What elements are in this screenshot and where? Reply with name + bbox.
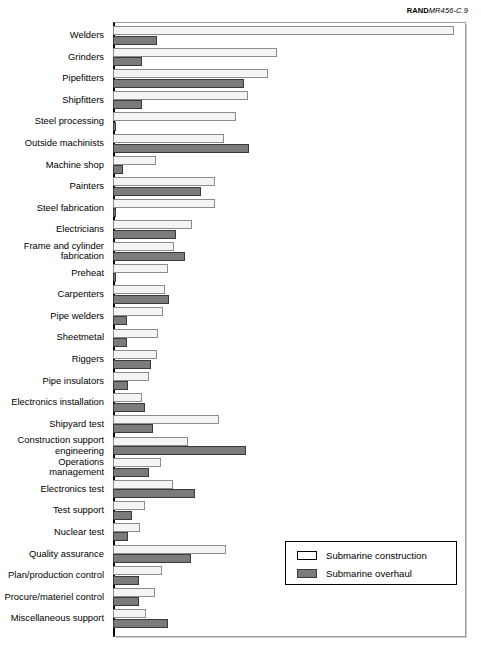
bar-group	[113, 48, 466, 70]
bar-submarine-construction	[113, 199, 215, 208]
bar-submarine-construction	[113, 48, 277, 57]
bar-submarine-construction	[113, 134, 224, 143]
source-credit-rest: MR456-C.9	[429, 6, 468, 15]
legend-label-construction: Submarine construction	[326, 550, 427, 561]
bar-submarine-overhaul	[113, 338, 127, 347]
legend-item-submarine-overhaul: Submarine overhaul	[297, 567, 412, 579]
bar-submarine-construction	[113, 307, 163, 316]
bar-group	[113, 415, 466, 437]
bar-submarine-construction	[113, 501, 145, 510]
bar-submarine-overhaul	[113, 597, 139, 606]
category-label: Electricians	[0, 224, 104, 235]
bar-submarine-overhaul	[113, 230, 176, 239]
bar-submarine-overhaul	[113, 273, 116, 282]
category-label: Steel fabrication	[0, 203, 104, 214]
bar-group	[113, 609, 466, 631]
legend-swatch-construction-icon	[297, 551, 317, 560]
legend-label-overhaul: Submarine overhaul	[326, 568, 412, 579]
bar-group	[113, 393, 466, 415]
bar-submarine-construction	[113, 112, 236, 121]
bar-submarine-overhaul	[113, 403, 145, 412]
bar-group	[113, 220, 466, 242]
category-label: Carpenters	[0, 289, 104, 300]
bar-group	[113, 458, 466, 480]
bar-group	[113, 134, 466, 156]
bar-submarine-overhaul	[113, 489, 195, 498]
bar-submarine-overhaul	[113, 381, 128, 390]
bar-group	[113, 501, 466, 523]
bar-submarine-construction	[113, 264, 168, 273]
category-label: Pipe welders	[0, 311, 104, 322]
bar-submarine-overhaul	[113, 532, 128, 541]
bar-submarine-overhaul	[113, 446, 246, 455]
bar-group	[113, 242, 466, 264]
category-label: Shipyard test	[0, 419, 104, 430]
category-label: Grinders	[0, 52, 104, 63]
bar-submarine-construction	[113, 480, 173, 489]
category-label: Riggers	[0, 354, 104, 365]
bar-group	[113, 329, 466, 351]
bar-group	[113, 199, 466, 221]
bar-submarine-construction	[113, 220, 192, 229]
bar-group	[113, 480, 466, 502]
bar-group	[113, 69, 466, 91]
bar-submarine-construction	[113, 393, 142, 402]
category-label: Electronics installation	[0, 397, 104, 408]
category-label: Preheat	[0, 268, 104, 279]
category-label: Electronics test	[0, 484, 104, 495]
bar-submarine-construction	[113, 415, 219, 424]
category-label: Plan/production control	[0, 570, 104, 581]
bar-group	[113, 264, 466, 286]
bar-submarine-overhaul	[113, 576, 139, 585]
bar-submarine-overhaul	[113, 424, 153, 433]
bar-submarine-overhaul	[113, 79, 244, 88]
bar-submarine-overhaul	[113, 208, 116, 217]
bar-submarine-construction	[113, 588, 155, 597]
bar-submarine-construction	[113, 156, 156, 165]
bar-submarine-overhaul	[113, 187, 201, 196]
category-label: Frame and cylinder fabrication	[0, 241, 104, 262]
category-label: Sheetmetal	[0, 332, 104, 343]
bar-submarine-construction	[113, 437, 188, 446]
bar-submarine-overhaul	[113, 100, 142, 109]
category-label: Miscellaneous support	[0, 613, 104, 624]
bar-submarine-overhaul	[113, 165, 123, 174]
bar-submarine-overhaul	[113, 619, 168, 628]
bar-group	[113, 26, 466, 48]
category-label: Shipfitters	[0, 95, 104, 106]
bar-group	[113, 588, 466, 610]
category-label: Procure/materiel control	[0, 592, 104, 603]
bar-submarine-overhaul	[113, 316, 127, 325]
bar-submarine-construction	[113, 26, 454, 35]
category-label: Steel processing	[0, 116, 104, 127]
bar-group	[113, 350, 466, 372]
category-label: Welders	[0, 30, 104, 41]
bar-group	[113, 177, 466, 199]
bar-submarine-construction	[113, 372, 149, 381]
bar-group	[113, 285, 466, 307]
category-label: Painters	[0, 181, 104, 192]
bar-group	[113, 91, 466, 113]
bar-submarine-construction	[113, 523, 140, 532]
category-label: Quality assurance	[0, 549, 104, 560]
category-label: Machine shop	[0, 160, 104, 171]
bar-submarine-overhaul	[113, 295, 169, 304]
legend-item-submarine-construction: Submarine construction	[297, 549, 427, 561]
bar-submarine-construction	[113, 91, 248, 100]
bar-submarine-construction	[113, 242, 174, 251]
bar-submarine-overhaul	[113, 360, 151, 369]
source-credit: RANDMR456-C.9	[407, 6, 468, 15]
category-label: Test support	[0, 505, 104, 516]
bar-submarine-construction	[113, 69, 268, 78]
bar-submarine-overhaul	[113, 468, 149, 477]
bar-submarine-construction	[113, 545, 226, 554]
bar-submarine-construction	[113, 177, 215, 186]
category-label: Outside machinists	[0, 138, 104, 149]
bar-submarine-overhaul	[113, 57, 142, 66]
source-credit-prefix: RAND	[407, 6, 429, 15]
category-label: Operations management	[0, 457, 104, 478]
bar-submarine-construction	[113, 285, 165, 294]
bar-submarine-construction	[113, 566, 162, 575]
bar-submarine-overhaul	[113, 554, 191, 563]
legend-swatch-overhaul-icon	[297, 569, 317, 578]
